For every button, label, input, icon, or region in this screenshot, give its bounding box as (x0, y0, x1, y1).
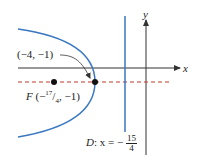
directrix-prefix: D (86, 136, 94, 148)
vertex-leader-arrow (60, 55, 90, 78)
directrix-label: D: x = − 15 4 (86, 134, 137, 153)
focus-close: , −1) (59, 90, 80, 102)
focus-frac-num: 17 (45, 89, 52, 97)
directrix-fraction: 15 4 (126, 134, 137, 153)
directrix-frac-den: 4 (126, 144, 137, 153)
focus-label: F (−17/4, −1) (26, 90, 80, 105)
focus-prefix: F (26, 90, 33, 102)
x-axis-label: x (183, 63, 188, 74)
vertex-point (92, 79, 98, 85)
parabola-diagram: y x (−4, −1) F (−17/4, −1) D: x = − 15 4 (0, 0, 197, 160)
focus-point (51, 79, 57, 85)
vertex-label: (−4, −1) (17, 49, 53, 60)
directrix-eq: : x = − (94, 136, 123, 148)
y-axis-label: y (143, 9, 148, 20)
focus-open: (− (35, 90, 45, 102)
